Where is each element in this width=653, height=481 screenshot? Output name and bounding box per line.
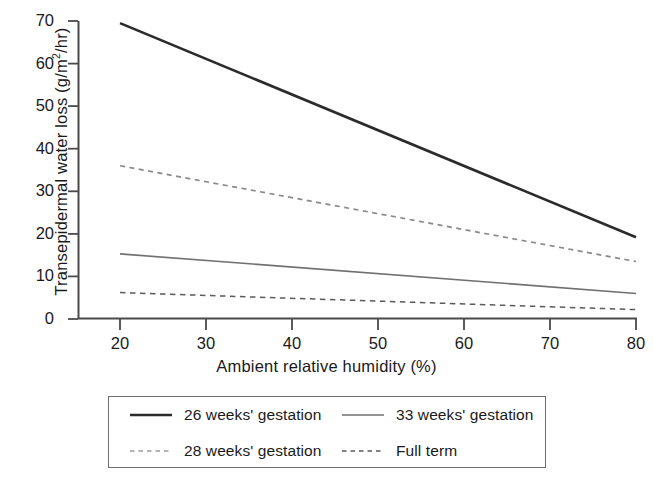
legend-item-28-weeks: 28 weeks' gestation — [109, 433, 327, 469]
legend-label-26-weeks: 26 weeks' gestation — [184, 406, 322, 424]
y-tick-label-10: 10 — [8, 267, 54, 284]
x-tick-label-50: 50 — [353, 335, 403, 352]
series-line-1 — [120, 166, 636, 262]
y-tick-label-70: 70 — [8, 12, 54, 29]
x-tick-label-60: 60 — [439, 335, 489, 352]
x-axis-ticks — [120, 319, 636, 330]
x-tick-label-80: 80 — [611, 335, 653, 352]
y-tick-label-30: 30 — [8, 182, 54, 199]
series-line-3 — [120, 293, 636, 310]
x-tick-label-30: 30 — [181, 335, 231, 352]
y-axis-title-tail: /hr) — [52, 27, 70, 53]
y-axis-title-superscript: 2 — [50, 53, 62, 59]
x-tick-label-20: 20 — [95, 335, 145, 352]
y-tick-label-60: 60 — [8, 55, 54, 72]
series-line-2 — [120, 254, 636, 294]
legend-label-full-term: Full term — [396, 442, 457, 460]
chart-figure: 70 60 50 40 30 20 10 0 20 30 40 50 60 70… — [0, 0, 653, 481]
y-axis-title: Transepidermal water loss (g/m2/hr) — [52, 0, 71, 327]
y-tick-label-20: 20 — [8, 225, 54, 242]
data-series-group — [120, 23, 636, 310]
x-axis-title: Ambient relative humidity (%) — [0, 357, 653, 376]
legend-item-26-weeks: 26 weeks' gestation — [109, 397, 327, 433]
legend-item-full-term: Full term — [327, 433, 547, 469]
y-tick-label-0: 0 — [8, 310, 54, 327]
legend-item-33-weeks: 33 weeks' gestation — [327, 397, 547, 433]
chart-legend: 26 weeks' gestation 33 weeks' gestation … — [108, 396, 546, 468]
legend-swatch-dashed-icon — [341, 445, 385, 457]
legend-label-28-weeks: 28 weeks' gestation — [184, 442, 322, 460]
axis-lines — [78, 21, 637, 319]
legend-label-33-weeks: 33 weeks' gestation — [396, 406, 534, 424]
x-tick-label-40: 40 — [267, 335, 317, 352]
x-tick-label-70: 70 — [525, 335, 575, 352]
y-tick-label-40: 40 — [8, 140, 54, 157]
y-tick-label-50: 50 — [8, 97, 54, 114]
legend-swatch-solid-thin-icon — [341, 409, 385, 421]
legend-swatch-solid-thick-icon — [129, 409, 173, 421]
series-line-0 — [120, 23, 636, 237]
legend-swatch-dotted-icon — [129, 445, 173, 457]
y-axis-title-main: Transepidermal water loss (g/m — [52, 59, 70, 295]
